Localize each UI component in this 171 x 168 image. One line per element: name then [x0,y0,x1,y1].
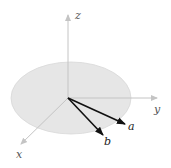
vector-a-label: a [128,120,135,133]
z-axis-label: z [74,9,81,22]
3d-vector-diagram: z y x a b [0,0,171,168]
y-axis-label: y [153,103,161,116]
vector-b-label: b [104,135,111,148]
x-axis-label: x [16,148,23,161]
